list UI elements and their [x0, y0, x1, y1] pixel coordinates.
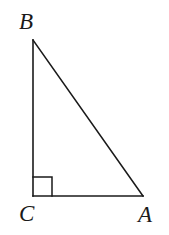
- vertex-label-b: B: [19, 10, 33, 33]
- triangle-diagram-svg: [0, 0, 169, 235]
- figure-background: [0, 0, 169, 235]
- geometry-figure: B C A: [0, 0, 169, 235]
- vertex-label-c: C: [19, 202, 34, 225]
- vertex-label-a: A: [138, 203, 152, 226]
